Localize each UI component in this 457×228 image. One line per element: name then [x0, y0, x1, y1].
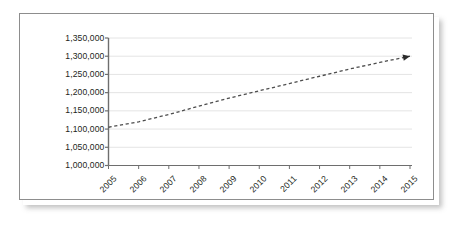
y-axis-tick-label: 1,100,000: [33, 124, 105, 134]
y-axis-tick-label: 1,200,000: [33, 87, 105, 97]
chart-figure: 1,350,0001,300,0001,250,0001,200,0001,15…: [0, 0, 457, 228]
y-axis-tick-label: 1,250,000: [33, 69, 105, 79]
y-axis-tick-label: 1,050,000: [33, 142, 105, 152]
y-axis-tick-label: 1,150,000: [33, 105, 105, 115]
y-axis-tick-label: 1,300,000: [33, 51, 105, 61]
y-axis-tick-label: 1,000,000: [33, 160, 105, 170]
y-axis-tick-label: 1,350,000: [33, 33, 105, 43]
